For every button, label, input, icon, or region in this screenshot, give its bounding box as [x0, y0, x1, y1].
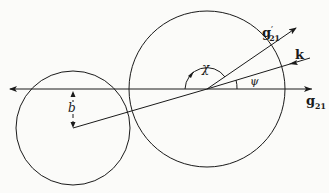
label-b: b — [68, 102, 76, 114]
impact-parameter-line — [73, 89, 207, 128]
label-k: k — [295, 48, 304, 61]
b-arrow-up-icon — [71, 91, 76, 97]
label-chi: χ — [202, 62, 209, 74]
collision-diagram: g′21 k χ ψ g21 b — [0, 0, 329, 193]
g21-sub: 21 — [315, 102, 326, 111]
label-g21-prime: g′21 — [262, 26, 280, 43]
g21-prime-sub: 21 — [269, 34, 280, 43]
g21-base: g — [306, 93, 315, 108]
label-psi: ψ — [250, 76, 259, 87]
psi-arc — [236, 80, 237, 89]
label-g21: g21 — [306, 94, 326, 110]
g21-prime-prime: ′ — [271, 25, 273, 34]
